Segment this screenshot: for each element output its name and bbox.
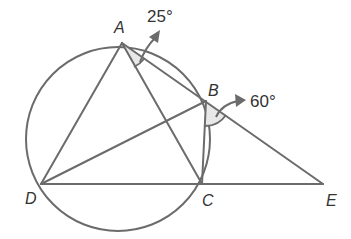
point-label-d: D [25, 190, 37, 207]
geometry-diagram: 25° 60° A B C D E [0, 0, 351, 239]
point-label-c: C [202, 192, 214, 209]
angle-label-b: 60° [250, 92, 276, 111]
circumcircle [26, 47, 210, 231]
arrow-a-head-icon [149, 30, 160, 43]
point-label-b: B [208, 82, 219, 99]
point-label-a: A [113, 19, 125, 36]
segment-ae [122, 43, 323, 184]
point-label-e: E [326, 192, 337, 209]
angle-label-a: 25° [147, 7, 173, 26]
segment-ac [122, 43, 202, 184]
arrow-b-head-icon [235, 94, 246, 107]
